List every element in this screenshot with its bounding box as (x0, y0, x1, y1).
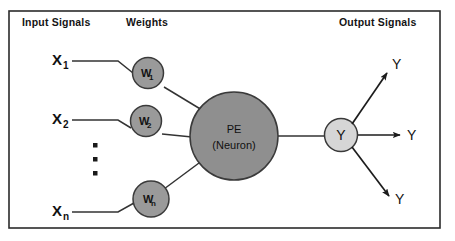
weight-label-1-sub: 1 (149, 73, 154, 82)
weight-label-n-sub: n (151, 199, 156, 208)
input-label-n-base: X (52, 202, 62, 219)
output-signal-label-right: Y (407, 127, 417, 143)
input-label-n-sub: n (63, 211, 69, 222)
header-weights: Weights (126, 16, 168, 28)
output-signal-label-up: Y (392, 56, 402, 72)
input-label-1-sub: 1 (63, 60, 69, 71)
header-output-signals: Output Signals (339, 16, 416, 28)
input-label-1-base: X (52, 51, 62, 68)
weight-node-2: W 2 (131, 106, 162, 137)
processing-element-node: PE (Neuron) (190, 92, 278, 180)
neuron-diagram: Input Signals Weights Output Signals W 1… (0, 0, 455, 241)
weight-node-1: W 1 (133, 58, 164, 89)
input-label-2-base: X (52, 110, 62, 127)
ellipsis-dot-1 (93, 143, 98, 148)
diagram-canvas: Input Signals Weights Output Signals W 1… (0, 0, 455, 241)
weight-node-n: W n (133, 181, 169, 217)
ellipsis-dot-2 (93, 157, 98, 162)
pe-label-line2: (Neuron) (212, 139, 255, 151)
ellipsis-dot-3 (93, 171, 98, 176)
output-node-label: Y (336, 127, 346, 143)
weight-label-2-sub: 2 (147, 121, 152, 130)
pe-label-line1: PE (227, 123, 242, 135)
output-signal-label-down: Y (395, 191, 405, 207)
input-label-2-sub: 2 (63, 119, 69, 130)
header-input-signals: Input Signals (22, 16, 91, 28)
